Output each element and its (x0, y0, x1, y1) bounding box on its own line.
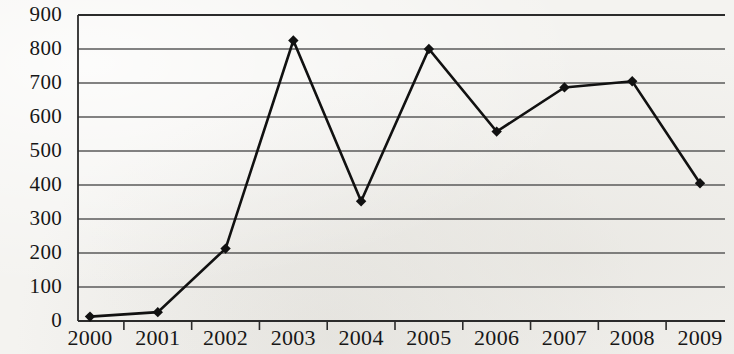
x-tick-label: 2009 (660, 327, 734, 349)
x-axis: 2000 2001 2002 2003 2004 2005 2006 2007 … (0, 0, 734, 354)
line-chart: 900 800 700 600 500 400 300 200 100 0 20… (0, 0, 734, 354)
